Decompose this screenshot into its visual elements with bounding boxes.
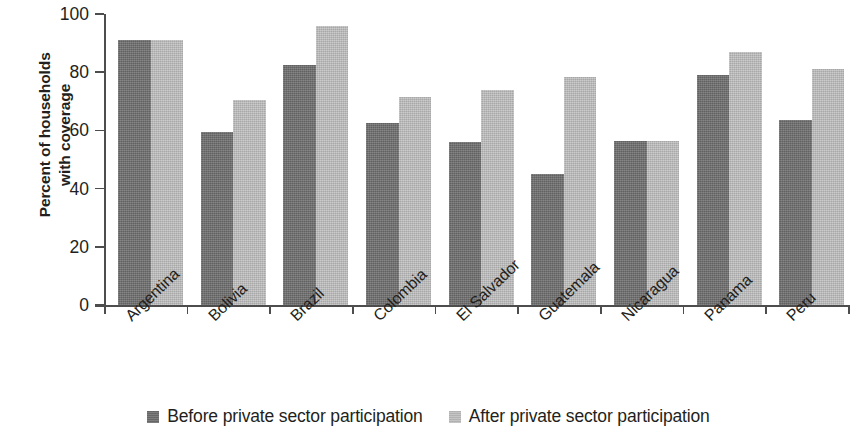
legend-label: Before private sector participation (167, 406, 422, 427)
bar-before[interactable] (366, 123, 399, 305)
legend-label: After private sector participation (469, 406, 710, 427)
bar-after[interactable] (151, 40, 184, 305)
x-axis-tick-mark (352, 305, 354, 314)
bar-after[interactable] (233, 100, 266, 305)
y-axis-tick-mark: 100 (95, 13, 104, 15)
x-axis-tick-mark (600, 305, 602, 314)
x-axis-tick-mark (269, 305, 271, 314)
y-axis-tick-label: 0 (79, 295, 89, 316)
bar-before[interactable] (531, 174, 564, 305)
bar-before[interactable] (614, 141, 647, 305)
y-axis-tick-label: 100 (60, 4, 89, 25)
bar-after[interactable] (729, 52, 762, 305)
y-axis-tick-mark: 80 (95, 71, 104, 73)
y-axis-tick-mark: 0 (95, 304, 104, 306)
chart-legend: Before private sector participationAfter… (0, 406, 857, 427)
y-axis-tick-mark: 20 (95, 246, 104, 248)
bar-group (366, 14, 431, 305)
bar-group (283, 14, 348, 305)
x-axis-tick-mark (683, 305, 685, 314)
x-axis-tick-mark (104, 305, 106, 314)
x-axis-tick-mark (848, 305, 850, 314)
x-axis-tick-mark (435, 305, 437, 314)
bar-before[interactable] (779, 120, 812, 305)
bar-after[interactable] (812, 69, 845, 305)
x-axis-tick-mark (517, 305, 519, 314)
plot-area: 020406080100 (104, 14, 848, 305)
bar-group (697, 14, 762, 305)
bar-chart: Percent of households with coverage 0204… (0, 0, 857, 435)
legend-swatch-icon (147, 411, 159, 423)
y-axis-title-line-1: Percent of households (35, 25, 55, 245)
y-axis-tick-mark: 40 (95, 188, 104, 190)
bar-before[interactable] (283, 65, 316, 305)
y-axis-tick-mark: 60 (95, 130, 104, 132)
bar-before[interactable] (449, 142, 482, 305)
bar-before[interactable] (118, 40, 151, 305)
bar-after[interactable] (316, 26, 349, 305)
x-axis-tick-mark (187, 305, 189, 314)
bar-before[interactable] (201, 132, 234, 305)
y-axis-tick-label: 60 (70, 120, 89, 141)
bar-group (118, 14, 183, 305)
legend-item-after[interactable]: After private sector participation (449, 406, 710, 427)
x-axis-tick-mark (765, 305, 767, 314)
legend-swatch-icon (449, 411, 461, 423)
y-axis-tick-label: 80 (70, 62, 89, 83)
bar-before[interactable] (697, 75, 730, 305)
y-axis-tick-label: 40 (70, 178, 89, 199)
y-axis-line (104, 14, 106, 305)
y-axis-tick-label: 20 (70, 236, 89, 257)
bar-group (779, 14, 844, 305)
bar-group (201, 14, 266, 305)
legend-item-before[interactable]: Before private sector participation (147, 406, 422, 427)
